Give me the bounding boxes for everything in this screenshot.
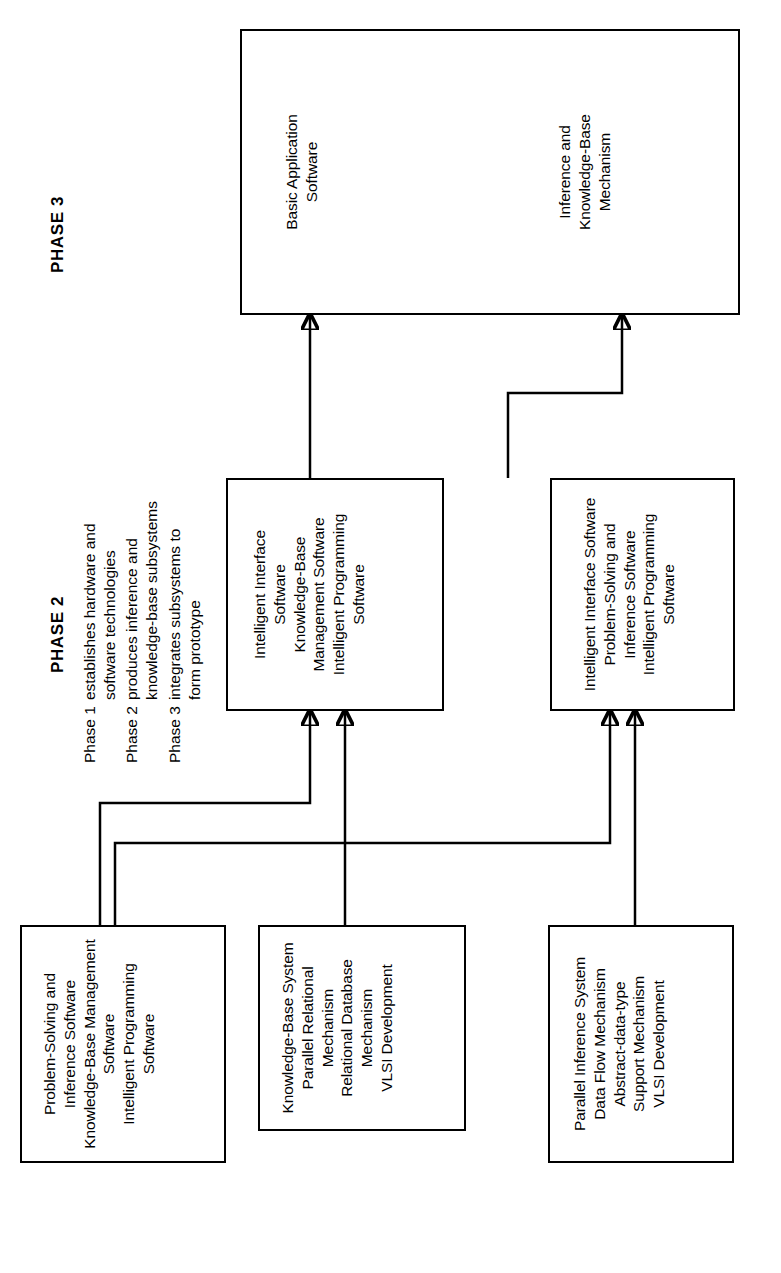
node-knowledge-base-system-text: Knowledge-Base System Parallel Relationa… bbox=[278, 925, 397, 1131]
node-intelligent-interface-problem-solving-text: Intelligent Interface Software Problem-S… bbox=[580, 478, 679, 711]
node-parallel-inference-system-text: Parallel Inference System Data Flow Mech… bbox=[570, 925, 669, 1163]
node-intelligent-interface-knowledge-base-text: Intelligent Interface Software Knowledge… bbox=[250, 478, 369, 711]
note-row: Phase 3 integrates subsystems to form pr… bbox=[165, 363, 205, 763]
diagram-canvas: PHASE 1 PHASE 2 PHASE 3 Parallel Inferen… bbox=[0, 0, 781, 1273]
node-phase3-basic-application-text: Basic Application Software bbox=[282, 29, 322, 315]
note-text: integrates subsystems to form prototype bbox=[165, 529, 205, 700]
node-phase3-inference-mechanism-text: Inference and Knowledge-Base Mechanism bbox=[555, 29, 614, 315]
phase-label-2: PHASE 2 bbox=[48, 596, 68, 673]
note-text: establishes hardware and software techno… bbox=[80, 523, 120, 700]
note-text: produces inference and knowledge-base su… bbox=[122, 501, 162, 700]
note-key: Phase 3 bbox=[165, 700, 185, 763]
note-row: Phase 2 produces inference and knowledge… bbox=[122, 363, 162, 763]
note-key: Phase 2 bbox=[122, 700, 142, 763]
node-problem-solving-software-text: Problem-Solving and Inference Software K… bbox=[40, 925, 159, 1163]
phase-notes: Phase 1 establishes hardware and softwar… bbox=[80, 363, 207, 763]
note-key: Phase 1 bbox=[80, 700, 100, 763]
link-p2b1-to-p3-inference bbox=[508, 315, 622, 478]
phase-label-3: PHASE 3 bbox=[48, 196, 68, 273]
note-row: Phase 1 establishes hardware and softwar… bbox=[80, 363, 120, 763]
